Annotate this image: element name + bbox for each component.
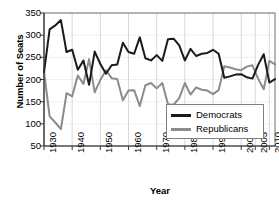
- x-tick-label: 1940: [76, 132, 86, 153]
- x-axis-tick-labels: 1930194019501960197019801990200020052010: [0, 0, 279, 203]
- legend: Democrats Republicans: [166, 104, 264, 139]
- legend-label-democrats: Democrats: [196, 110, 242, 120]
- seats-by-party-line-chart: Number of Seats Year 5010015020025030035…: [0, 0, 279, 203]
- x-tick-label: 1950: [104, 132, 114, 153]
- x-tick-label: 2010: [273, 132, 279, 153]
- legend-item-democrats: Democrats: [171, 108, 259, 122]
- legend-label-republicans: Republicans: [196, 124, 248, 134]
- legend-swatch-democrats: [171, 114, 191, 117]
- legend-swatch-republicans: [171, 128, 191, 131]
- x-tick-label: 1960: [133, 132, 143, 153]
- legend-item-republicans: Republicans: [171, 122, 259, 136]
- x-tick-label: 1930: [48, 132, 58, 153]
